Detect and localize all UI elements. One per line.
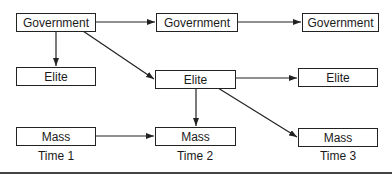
node-government-time1: Government [16,13,96,32]
node-label: Mass [324,131,353,145]
node-label: Government [164,16,230,30]
node-label: Mass [181,130,210,144]
time-label-1: Time 1 [16,149,96,163]
node-elite-time1: Elite [16,67,96,86]
node-government-time2: Government [156,13,238,32]
node-mass-time3: Mass [298,128,378,147]
node-mass-time2: Mass [155,127,236,146]
node-label: Elite [184,73,207,87]
node-label: Mass [42,130,71,144]
node-government-time3: Government [302,13,379,32]
time-label-3: Time 3 [298,149,378,163]
node-label: Government [307,16,373,30]
node-elite-time3: Elite [298,68,378,87]
node-mass-time1: Mass [16,127,96,146]
node-elite-time2: Elite [155,70,236,89]
bottom-divider [0,172,392,174]
node-label: Elite [326,71,349,85]
time-label-2: Time 2 [155,149,235,163]
node-label: Government [23,16,89,30]
node-label: Elite [44,70,67,84]
